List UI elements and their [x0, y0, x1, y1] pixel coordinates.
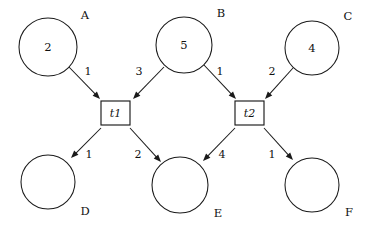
arc-t1-D: 1 [71, 128, 101, 161]
arc-weight-t1-D: 1 [86, 148, 93, 161]
arc-t2-E: 4 [203, 128, 235, 161]
place-label-E: E [214, 206, 222, 220]
place-label-B: B [217, 6, 225, 20]
transition-label-t1: t1 [110, 107, 121, 120]
arc-weight-B-t1: 3 [136, 65, 143, 78]
arc-B-t2: 1 [204, 65, 236, 99]
arc-weight-A-t1: 1 [85, 65, 92, 78]
arc-weight-C-t2: 2 [269, 65, 276, 78]
place-D[interactable]: D [21, 155, 90, 218]
place-label-A: A [80, 8, 90, 22]
place-circle-E[interactable] [152, 157, 208, 213]
transition-t1[interactable]: t1 [101, 101, 130, 125]
place-circle-D[interactable] [21, 155, 75, 209]
transition-t2[interactable]: t2 [235, 101, 264, 125]
arc-t1-E: 2 [130, 128, 161, 162]
arc-weight-t1-E: 2 [135, 148, 142, 161]
place-C[interactable]: 4C [285, 9, 353, 75]
arc-weight-t2-F: 1 [269, 148, 276, 161]
place-label-D: D [80, 204, 89, 218]
place-E[interactable]: E [152, 157, 222, 220]
place-F[interactable]: F [285, 158, 353, 219]
petri-net-diagram: 131212412A5B4CDEFt1t2 [0, 0, 369, 227]
place-token-count-A: 2 [44, 40, 51, 54]
arc-B-t1: 3 [133, 65, 164, 99]
place-token-count-C: 4 [308, 41, 315, 55]
arc-weight-t2-E: 4 [219, 148, 226, 161]
diagram-canvas: 131212412A5B4CDEFt1t2 [0, 0, 369, 227]
arc-C-t2: 2 [265, 65, 293, 99]
place-B[interactable]: 5B [156, 6, 225, 73]
arc-A-t1: 1 [69, 65, 100, 99]
transition-label-t2: t2 [244, 107, 255, 120]
arc-t2-F: 1 [264, 128, 293, 161]
arc-line-A-t1 [69, 67, 96, 95]
place-token-count-B: 5 [180, 38, 187, 52]
place-label-F: F [345, 205, 353, 219]
place-label-C: C [344, 9, 353, 23]
place-A[interactable]: 2A [19, 8, 90, 76]
arc-weight-B-t2: 1 [217, 65, 224, 78]
place-circle-F[interactable] [285, 158, 339, 212]
